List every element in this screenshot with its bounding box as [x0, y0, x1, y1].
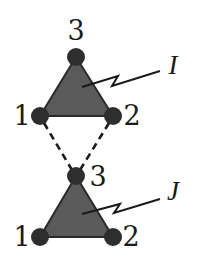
- triangle-J-node-3: [67, 167, 85, 185]
- triangle-I-node-1-label: 1: [13, 100, 30, 131]
- triangle-graph-diagram: 3 1 2 I 3 1 2 J: [0, 0, 198, 263]
- dashed-edge-I1-J3: [44, 123, 72, 170]
- triangle-I-node-3: [67, 48, 85, 66]
- triangle-I: 3 1 2 I: [13, 15, 179, 131]
- triangle-I-name-label: I: [168, 50, 180, 80]
- triangle-J-node-2: [104, 228, 122, 246]
- triangle-J-node-2-label: 2: [122, 221, 139, 252]
- triangle-J-node-1-label: 1: [13, 221, 30, 252]
- triangle-I-node-2-label: 2: [123, 100, 140, 131]
- triangle-J: 3 1 2 J: [13, 161, 181, 252]
- triangle-J-name-label: J: [167, 176, 181, 206]
- triangle-J-node-1: [31, 228, 49, 246]
- triangle-I-node-3-label: 3: [67, 15, 84, 46]
- triangle-J-node-3-label: 3: [89, 161, 106, 192]
- triangle-I-node-2: [104, 107, 122, 125]
- triangle-I-node-1: [31, 107, 49, 125]
